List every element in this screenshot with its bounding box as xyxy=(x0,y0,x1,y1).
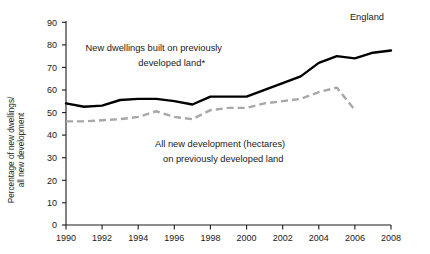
x-tick-label-1994: 1994 xyxy=(128,233,148,243)
x-tick-label-2000: 2000 xyxy=(237,233,257,243)
x-tick-label-1992: 1992 xyxy=(92,233,112,243)
x-tick-label-1998: 1998 xyxy=(200,233,220,243)
y-tick-label-90: 90 xyxy=(47,18,57,28)
x-tick-label-1990: 1990 xyxy=(56,233,76,243)
y-tick-label-30: 30 xyxy=(47,153,57,163)
x-tick-label-2002: 2002 xyxy=(273,233,293,243)
x-axis-ticks xyxy=(66,225,391,230)
annotation-all-new-development-line-1: All new development (hectares) xyxy=(155,139,285,149)
annotation-all-new-development-line-2: on previously developed land xyxy=(163,154,283,164)
annotation-new-dwellings-line-1: New dwellings built on previously xyxy=(86,43,223,53)
line-chart: Percentage of new dwellings/ all new dev… xyxy=(0,0,430,254)
y-axis-ticks xyxy=(62,22,66,225)
y-tick-label-40: 40 xyxy=(47,130,57,140)
y-tick-label-60: 60 xyxy=(47,85,57,95)
x-tick-label-2006: 2006 xyxy=(345,233,365,243)
y-axis-title-line-1: Percentage of new dwellings/ xyxy=(7,96,16,203)
chart-container: Percentage of new dwellings/ all new dev… xyxy=(0,0,430,254)
y-tick-label-20: 20 xyxy=(47,176,57,186)
y-tick-label-50: 50 xyxy=(47,108,57,118)
region-label-england: England xyxy=(350,12,384,22)
y-axis-title-line-2: all new development xyxy=(17,112,26,187)
x-tick-label-2008: 2008 xyxy=(381,233,401,243)
x-axis-tick-labels: 1990 1992 1994 1996 1998 2000 2002 2004 … xyxy=(56,233,401,243)
annotation-new-dwellings-line-2: developed land* xyxy=(138,58,205,68)
y-tick-label-10: 10 xyxy=(47,198,57,208)
x-tick-label-2004: 2004 xyxy=(309,233,329,243)
y-tick-label-70: 70 xyxy=(47,63,57,73)
series-line-new-dwellings xyxy=(66,50,391,106)
y-tick-label-80: 80 xyxy=(47,40,57,50)
y-tick-label-0: 0 xyxy=(52,220,57,230)
y-axis-tick-labels: 90 80 70 60 50 40 30 20 10 0 xyxy=(47,18,57,231)
x-tick-label-1996: 1996 xyxy=(164,233,184,243)
